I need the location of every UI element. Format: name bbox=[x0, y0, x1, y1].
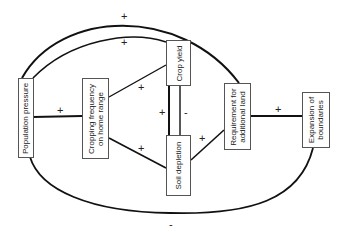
node-label: Expansion of boundaries bbox=[307, 97, 325, 143]
link-population-cropyield bbox=[33, 37, 166, 78]
node-label: Requirement for additional land bbox=[229, 88, 247, 145]
node-population-pressure: Population pressure bbox=[18, 78, 34, 158]
node-label-line1: Cropping frequency bbox=[87, 84, 96, 154]
node-label-line2: additional land bbox=[238, 88, 247, 145]
sign-population-cropping: + bbox=[57, 105, 63, 116]
sign-cropping-cropyield: + bbox=[138, 82, 144, 93]
sign-inner-top: + bbox=[121, 37, 127, 48]
node-label-line2: boundaries bbox=[316, 97, 325, 143]
sign-requirement-expansion: + bbox=[275, 104, 281, 115]
connector-layer bbox=[0, 0, 345, 235]
node-expansion-boundaries: Expansion of boundaries bbox=[302, 92, 330, 148]
node-label: Soil depletion bbox=[174, 141, 183, 189]
node-requirement-additional-land: Requirement for additional land bbox=[224, 83, 251, 150]
link-soil-requirement bbox=[191, 130, 224, 160]
node-soil-depletion: Soil depletion bbox=[166, 135, 191, 196]
link-population-requirement bbox=[22, 26, 239, 83]
node-crop-yield: Crop yield bbox=[166, 40, 191, 86]
node-label: Population pressure bbox=[22, 82, 31, 153]
node-label: Crop yield bbox=[174, 45, 183, 81]
sign-cropping-soil: + bbox=[138, 143, 144, 154]
node-cropping-frequency: Cropping frequency on home range bbox=[82, 78, 109, 159]
sign-soil-requirement: + bbox=[199, 133, 205, 144]
sign-bottom: - bbox=[169, 219, 173, 230]
sign-outer-top: + bbox=[121, 11, 127, 22]
link-population-cropping bbox=[33, 116, 82, 117]
node-label-line1: Expansion of bbox=[307, 97, 316, 143]
sign-soil-cropyield: - bbox=[184, 107, 188, 118]
node-label-line2: on home range bbox=[96, 84, 105, 154]
sign-cropyield-soil: + bbox=[159, 107, 165, 118]
node-label-line1: Requirement for bbox=[229, 88, 238, 145]
node-label: Cropping frequency on home range bbox=[87, 84, 105, 154]
